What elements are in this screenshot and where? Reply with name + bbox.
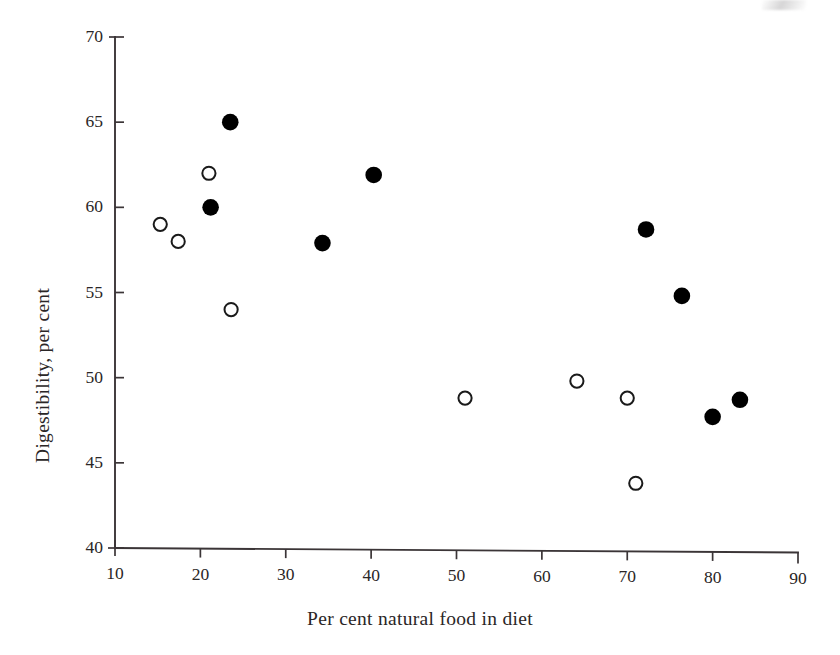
x-tick-label: 90 (768, 568, 828, 589)
x-tick-label: 60 (512, 566, 572, 587)
data-point-filled (732, 392, 749, 409)
data-point-open (621, 392, 634, 405)
data-point-open (154, 218, 167, 231)
x-tick-label: 40 (341, 565, 401, 586)
x-tick-label: 70 (597, 566, 657, 587)
data-point-filled (704, 409, 721, 426)
y-tick-label: 45 (57, 452, 103, 473)
y-tick-label: 50 (57, 367, 103, 388)
x-tick-label: 10 (85, 563, 145, 584)
y-axis-title: Digestibility, per cent (32, 288, 54, 463)
data-point-filled (365, 167, 382, 184)
x-tick-label: 30 (256, 564, 316, 585)
scatter-plot-figure: Per cent natural food in diet Digestibil… (0, 0, 840, 655)
data-point-filled (314, 235, 331, 252)
x-tick-label: 50 (427, 565, 487, 586)
data-point-open (629, 477, 642, 490)
x-axis-title: Per cent natural food in diet (0, 608, 840, 630)
data-point-open (570, 374, 583, 387)
data-point-open (172, 235, 185, 248)
plot-canvas (0, 0, 840, 655)
y-tick-label: 65 (57, 111, 103, 132)
series-open (154, 167, 643, 490)
y-tick-label: 40 (57, 537, 103, 558)
y-tick-label: 55 (57, 282, 103, 303)
series-filled (202, 114, 748, 425)
data-point-open (225, 303, 238, 316)
data-point-filled (674, 288, 691, 305)
data-point-filled (222, 114, 239, 131)
data-point-filled (202, 199, 219, 216)
data-point-open (202, 167, 215, 180)
y-tick-label: 60 (57, 196, 103, 217)
y-tick-label: 70 (57, 26, 103, 47)
x-tick-label: 20 (170, 564, 230, 585)
x-tick-label: 80 (683, 567, 743, 588)
data-point-open (458, 392, 471, 405)
data-point-filled (638, 221, 655, 238)
